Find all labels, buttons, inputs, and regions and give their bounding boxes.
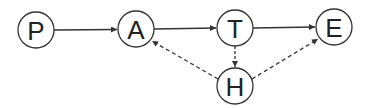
edge-h-a <box>152 41 218 79</box>
node-label-e: E <box>325 13 342 43</box>
node-label-h: H <box>226 72 245 102</box>
edge-p-a <box>54 30 117 31</box>
node-label-p: P <box>27 16 44 46</box>
edge-a-t <box>154 28 216 29</box>
node-label-a: A <box>127 15 145 45</box>
edge-t-e <box>253 27 315 28</box>
edge-h-e <box>252 39 318 79</box>
graph-diagram: P A T E H <box>0 0 368 108</box>
node-label-t: T <box>227 14 243 44</box>
